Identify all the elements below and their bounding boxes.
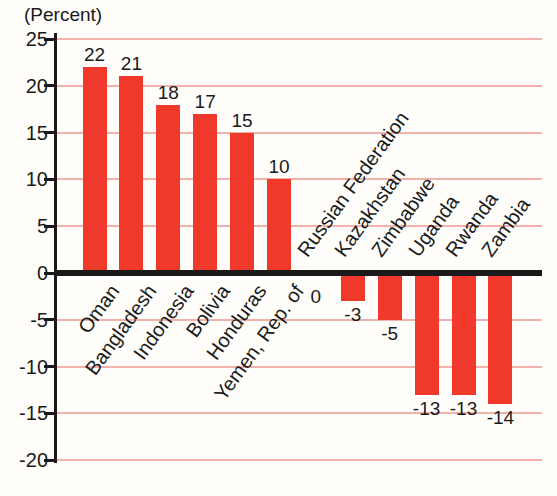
zero-baseline: [54, 270, 542, 276]
bar-value-zimbabwe: -5: [358, 325, 422, 343]
y-tick-label: 10: [0, 169, 48, 189]
bar-yemen-rep-of: [267, 179, 291, 270]
bar-honduras: [230, 133, 254, 270]
y-tick-label: 20: [0, 76, 48, 96]
y-axis-line: [54, 33, 57, 463]
bar-chart: (Percent) 2520151050-5-10-15-2022Oman21B…: [0, 0, 557, 496]
y-tick-label: -20: [0, 450, 48, 470]
bar-value-yemen-rep-of: 10: [247, 158, 311, 176]
bar-bangladesh: [119, 76, 143, 270]
bar-value-bolivia: 17: [173, 93, 237, 111]
bar-oman: [83, 67, 107, 270]
bar-value-russian-federation: 0: [284, 288, 348, 306]
y-tick-label: 25: [0, 29, 48, 49]
gridline: [57, 459, 542, 461]
bar-rwanda: [452, 276, 476, 395]
bar-value-zambia: -14: [468, 409, 532, 427]
bar-value-honduras: 15: [210, 112, 274, 130]
bar-value-bangladesh: 21: [99, 55, 163, 73]
bar-zambia: [488, 276, 512, 404]
y-tick-label: -10: [0, 357, 48, 377]
y-tick-label: -5: [0, 310, 48, 330]
y-tick-label: -15: [0, 403, 48, 423]
y-axis-unit-label: (Percent): [24, 4, 102, 26]
y-tick-label: 5: [0, 216, 48, 236]
bar-value-kazakhstan: -3: [321, 306, 385, 324]
bar-indonesia: [156, 105, 180, 270]
gridline: [57, 38, 542, 40]
bar-bolivia: [193, 114, 217, 270]
y-tick-label: 15: [0, 123, 48, 143]
y-tick-label: 0: [0, 263, 48, 283]
